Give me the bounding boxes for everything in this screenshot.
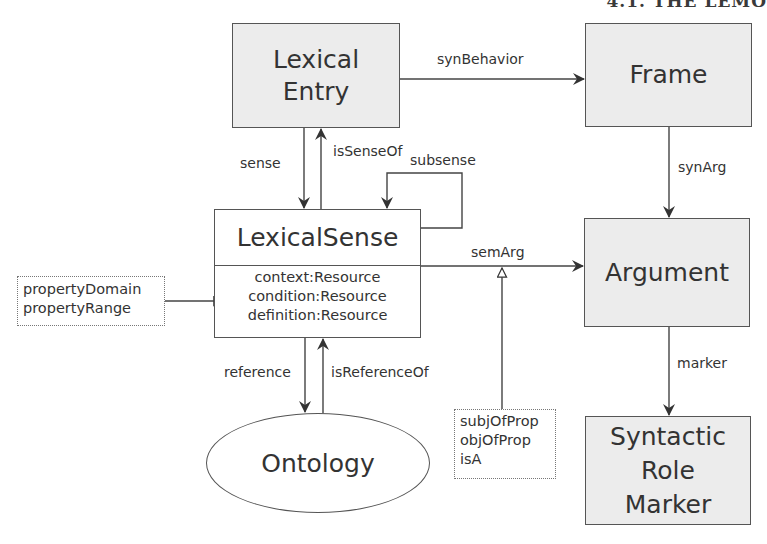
note-isa: isA	[460, 450, 550, 469]
attr-context: context:Resource	[215, 268, 420, 287]
srm-line1: Syntactic	[610, 420, 726, 454]
lexical-sense-attributes: context:Resource condition:Resource defi…	[215, 268, 420, 325]
lexical-sense-title: LexicalSense	[215, 210, 420, 266]
note-objofprop: objOfProp	[460, 431, 550, 450]
note-property-range: propertyRange	[23, 299, 159, 318]
argument-label: Argument	[605, 257, 729, 289]
lexical-entry-line2: Entry	[273, 76, 359, 108]
label-semarg: semArg	[471, 244, 525, 260]
semarg-note: subjOfProp objOfProp isA	[454, 409, 556, 479]
attr-condition: condition:Resource	[215, 287, 420, 306]
label-isreferenceof: isReferenceOf	[331, 364, 429, 380]
note-property-domain: propertyDomain	[23, 280, 159, 299]
label-issenseof: isSenseOf	[333, 143, 402, 159]
ontology-node: Ontology	[206, 413, 430, 513]
srm-line2: Role	[610, 454, 726, 488]
label-sense: sense	[240, 155, 281, 171]
frame-label: Frame	[630, 59, 708, 91]
lexical-sense-node: LexicalSense context:Resource condition:…	[214, 209, 421, 338]
lexical-entry-line1: Lexical	[273, 44, 359, 76]
lexical-entry-node: Lexical Entry	[232, 23, 400, 128]
property-note: propertyDomain propertyRange	[17, 276, 165, 326]
label-marker: marker	[677, 355, 727, 371]
label-synbehavior: synBehavior	[437, 51, 524, 67]
syntactic-role-marker-node: Syntactic Role Marker	[585, 416, 751, 525]
note-subjofprop: subjOfProp	[460, 412, 550, 431]
srm-line3: Marker	[610, 488, 726, 522]
label-synarg: synArg	[678, 159, 726, 175]
ontology-label: Ontology	[261, 449, 375, 478]
frame-node: Frame	[585, 23, 752, 127]
argument-node: Argument	[584, 218, 750, 327]
attr-definition: definition:Resource	[215, 306, 420, 325]
label-subsense: subsense	[410, 152, 476, 168]
label-reference: reference	[224, 364, 291, 380]
